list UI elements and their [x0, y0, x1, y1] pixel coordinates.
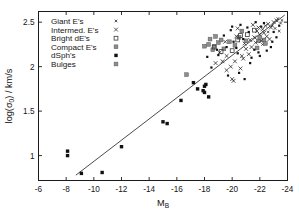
x-tick-label: -24: [282, 185, 294, 194]
legend-marker-square-grey: [114, 45, 118, 49]
data-point: [262, 38, 266, 42]
data-point: [253, 49, 255, 51]
y-tick-label: 1.5: [23, 107, 35, 116]
data-point: [255, 46, 259, 50]
data-point: [240, 29, 244, 33]
data-point: [259, 55, 261, 57]
data-point: [235, 47, 237, 49]
data-point: [226, 46, 228, 48]
data-point: [271, 41, 273, 43]
data-point: [232, 41, 234, 43]
data-point: [100, 171, 103, 174]
x-tick-label: -20: [226, 185, 238, 194]
x-tick-label: -10: [88, 185, 100, 194]
data-point: [233, 43, 237, 47]
data-point: [228, 40, 232, 44]
x-tick-label: -18: [199, 185, 211, 194]
data-point: [211, 48, 215, 52]
data-point: [66, 154, 69, 157]
data-point: [219, 38, 223, 42]
data-point: [238, 72, 240, 74]
data-point: [210, 66, 212, 68]
data-point: [244, 39, 248, 43]
data-point: [246, 26, 248, 28]
data-point: [263, 42, 267, 46]
x-tick-label: -16: [171, 185, 183, 194]
x-tick-label: -14: [143, 185, 155, 194]
data-point: [273, 31, 275, 33]
scatter-plot-svg: -6-8-10-12-14-16-18-20-22-24 11.522.5 Gi…: [0, 0, 299, 219]
legend-marker-square-grey2: [114, 62, 118, 66]
data-point: [242, 38, 244, 40]
data-point: [203, 85, 206, 88]
data-point: [249, 62, 251, 64]
data-point: [250, 57, 252, 59]
x-tick-label: -8: [63, 185, 71, 194]
data-point: [196, 87, 199, 90]
x-tick-label: -6: [35, 185, 43, 194]
data-point: [161, 120, 164, 123]
data-point: [266, 50, 268, 52]
y-axis-label: log(σ0) / km/s: [4, 68, 16, 123]
data-point: [255, 21, 257, 23]
x-tick-label: -22: [254, 185, 266, 194]
x-tick-label: -12: [116, 185, 128, 194]
data-point: [120, 145, 123, 148]
data-point: [208, 37, 212, 41]
data-point: [179, 99, 182, 102]
data-point: [165, 122, 168, 125]
data-point: [185, 73, 189, 77]
data-point: [237, 52, 239, 54]
data-point: [192, 81, 195, 84]
data-point: [217, 54, 219, 56]
data-point: [206, 56, 208, 58]
data-point: [66, 149, 69, 152]
data-point: [257, 51, 259, 53]
data-point: [270, 46, 272, 48]
data-point: [207, 43, 211, 47]
data-point: [260, 26, 262, 28]
data-point: [230, 29, 232, 31]
data-point: [231, 26, 233, 28]
data-point: [278, 25, 280, 27]
legend-label: Bulges: [51, 60, 76, 69]
data-point: [222, 47, 226, 51]
legend-marker-square-fill: [114, 54, 117, 57]
data-point: [223, 34, 225, 36]
figure-container: -6-8-10-12-14-16-18-20-22-24 11.522.5 Gi…: [0, 0, 299, 219]
data-point: [80, 172, 83, 175]
data-point: [263, 22, 265, 24]
data-point: [239, 24, 241, 26]
data-point: [275, 36, 277, 38]
data-point: [207, 95, 210, 98]
data-point: [214, 35, 218, 39]
y-tick-label: 2.5: [23, 18, 35, 27]
y-tick-label: 1: [30, 152, 35, 161]
data-point: [244, 78, 246, 80]
y-tick-label: 2: [30, 63, 35, 72]
data-point: [227, 74, 229, 76]
data-point: [258, 35, 262, 39]
data-point: [203, 91, 206, 94]
data-point: [203, 44, 207, 48]
data-point: [248, 31, 250, 33]
data-point: [216, 49, 218, 51]
